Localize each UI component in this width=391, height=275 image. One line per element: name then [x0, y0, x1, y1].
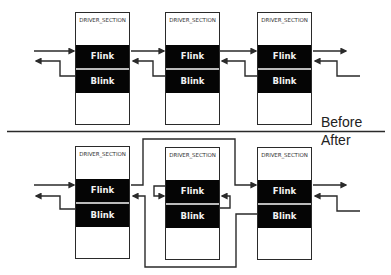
before-label: Before [321, 114, 362, 130]
blink-field: Blink [258, 205, 311, 228]
node-title: DRIVER_SECTION [76, 17, 129, 23]
flink-field: Flink [76, 179, 129, 202]
flink-field: Flink [76, 45, 129, 68]
after-label: After [321, 132, 351, 148]
flink-field: Flink [166, 180, 219, 203]
blink-field: Blink [76, 204, 129, 227]
node-title: DRIVER_SECTION [166, 17, 219, 23]
blink-field: Blink [76, 70, 129, 93]
node-title: DRIVER_SECTION [258, 17, 311, 23]
node-title: DRIVER_SECTION [166, 152, 219, 158]
node-title: DRIVER_SECTION [76, 151, 129, 157]
blink-field: Blink [166, 205, 219, 228]
driver-section-after-3: DRIVER_SECTION Flink Blink [257, 147, 312, 260]
blink-field: Blink [166, 70, 219, 93]
flink-field: Flink [258, 180, 311, 203]
blink-field: Blink [258, 70, 311, 93]
driver-section-before-3: DRIVER_SECTION Flink Blink [257, 12, 312, 125]
flink-field: Flink [258, 45, 311, 68]
driver-section-after-2-unlinked: DRIVER_SECTION Flink Blink [165, 147, 220, 260]
node-title: DRIVER_SECTION [258, 152, 311, 158]
driver-section-after-1: DRIVER_SECTION Flink Blink [75, 146, 130, 259]
driver-section-before-1: DRIVER_SECTION Flink Blink [75, 12, 130, 125]
driver-section-before-2: DRIVER_SECTION Flink Blink [165, 12, 220, 125]
flink-field: Flink [166, 45, 219, 68]
